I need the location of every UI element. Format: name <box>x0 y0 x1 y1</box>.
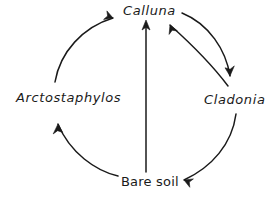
arrowhead-to-calluna-right <box>169 25 177 34</box>
edge-cladonia-to-calluna <box>169 25 228 86</box>
edge-arctostaphylos-to-calluna <box>55 11 113 82</box>
arrowhead-to-calluna-left <box>104 11 113 20</box>
arrowhead-to-bare-soil <box>184 179 193 187</box>
node-label-calluna: Calluna <box>123 4 176 17</box>
edge-cladonia-to-bare-soil <box>184 114 236 187</box>
cyclic-succession-diagram: Calluna Cladonia Bare soil Arctostaphylo… <box>0 0 275 198</box>
arrowhead-to-cladonia <box>225 66 234 76</box>
node-label-bare-soil: Bare soil <box>121 175 179 188</box>
node-label-arctostaphylos: Arctostaphylos <box>16 91 121 104</box>
node-label-cladonia: Cladonia <box>204 93 265 106</box>
edge-bare-soil-to-calluna <box>142 20 150 172</box>
edge-bare-soil-to-arctostaphylos <box>53 124 118 176</box>
